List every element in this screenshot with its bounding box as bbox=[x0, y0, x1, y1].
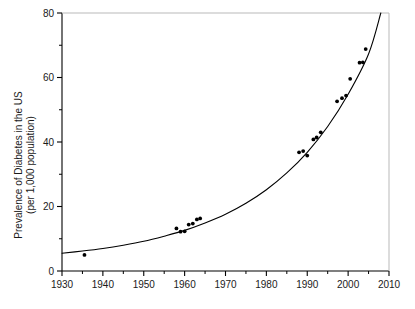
axis-tick-labels: 0204060801930194019501960197019801990200… bbox=[43, 8, 401, 291]
y-tick-label: 80 bbox=[43, 8, 55, 19]
data-point bbox=[297, 150, 301, 154]
y-tick-label: 60 bbox=[43, 72, 55, 83]
x-tick-label: 1980 bbox=[255, 279, 278, 290]
data-point bbox=[187, 223, 191, 227]
fit-curve bbox=[62, 13, 381, 253]
data-point bbox=[183, 229, 187, 233]
data-point bbox=[311, 138, 315, 142]
diabetes-prevalence-chart: Prevalence of Diabetes in the US (per 1,… bbox=[0, 0, 415, 309]
data-point bbox=[344, 94, 348, 98]
x-tick-label: 1990 bbox=[296, 279, 319, 290]
y-axis-title-line2: (per 1,000 population) bbox=[25, 116, 36, 214]
data-point bbox=[340, 96, 344, 100]
data-point bbox=[315, 136, 319, 140]
data-point bbox=[358, 61, 362, 65]
y-tick-label: 40 bbox=[43, 137, 55, 148]
x-tick-label: 2000 bbox=[337, 279, 360, 290]
data-point bbox=[305, 154, 309, 158]
data-point bbox=[301, 149, 305, 153]
chart-canvas: Prevalence of Diabetes in the US (per 1,… bbox=[0, 0, 415, 309]
x-tick-label: 1940 bbox=[92, 279, 115, 290]
data-point bbox=[83, 253, 87, 257]
data-point bbox=[191, 222, 195, 226]
x-tick-label: 1970 bbox=[214, 279, 237, 290]
x-tick-label: 2010 bbox=[378, 279, 401, 290]
y-axis-title-line1: Prevalence of Diabetes in the US bbox=[13, 91, 24, 239]
x-tick-label: 1930 bbox=[51, 279, 74, 290]
data-point bbox=[361, 60, 365, 64]
data-point bbox=[348, 77, 352, 81]
x-tick-label: 1950 bbox=[133, 279, 156, 290]
data-point bbox=[175, 227, 179, 231]
x-tick-label: 1960 bbox=[174, 279, 197, 290]
y-tick-label: 0 bbox=[48, 266, 54, 277]
y-axis-title: Prevalence of Diabetes in the US (per 1,… bbox=[13, 91, 36, 239]
axes bbox=[62, 13, 389, 271]
data-points bbox=[83, 47, 368, 257]
data-point bbox=[335, 99, 339, 103]
fit-curve-path bbox=[62, 13, 381, 253]
data-point bbox=[319, 130, 323, 134]
data-point bbox=[179, 230, 183, 234]
data-point bbox=[364, 47, 368, 51]
axis-ticks bbox=[57, 13, 389, 276]
y-tick-label: 20 bbox=[43, 201, 55, 212]
data-point bbox=[198, 217, 202, 221]
data-point bbox=[195, 218, 199, 222]
